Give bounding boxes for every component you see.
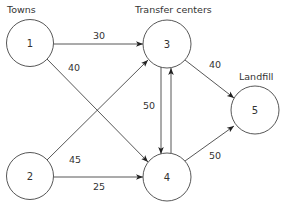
group-label-transfer-centers: Transfer centers (134, 4, 212, 15)
node-1: 1 (7, 20, 54, 67)
edge-label-4-5: 50 (209, 150, 221, 161)
node-label: 1 (27, 38, 33, 49)
edge-label-2-4: 25 (93, 181, 105, 192)
node-5: 5 (231, 86, 279, 134)
node-3: 3 (143, 20, 191, 68)
node-label: 2 (27, 171, 33, 182)
group-label-towns: Towns (6, 4, 36, 15)
group-label-landfill: Landfill (239, 71, 273, 82)
network-diagram: Towns Transfer centers Landfill 30 40 45… (0, 0, 282, 202)
edge-label-3-5: 40 (209, 59, 221, 70)
node-4: 4 (143, 153, 191, 201)
node-label: 3 (164, 39, 170, 50)
edge-label-1-3: 30 (93, 30, 105, 41)
edge-label-3-4: 50 (143, 100, 155, 111)
node-2: 2 (7, 153, 54, 200)
node-label: 4 (164, 172, 170, 183)
edge-label-1-4: 40 (68, 62, 80, 73)
node-label: 5 (252, 105, 258, 116)
edge-label-2-3: 45 (69, 154, 81, 165)
